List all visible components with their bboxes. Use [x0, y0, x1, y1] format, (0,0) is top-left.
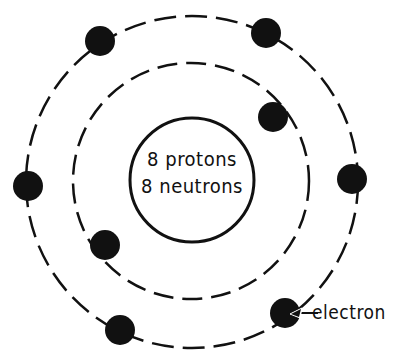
electron-outer-1: [85, 26, 115, 56]
nucleus-label: 8 protons 8 neutrons: [122, 146, 262, 200]
electron-inner-1: [258, 102, 288, 132]
electron-outer-3: [337, 164, 367, 194]
neutrons-label: 8 neutrons: [122, 173, 262, 200]
electron-outer-5: [105, 315, 135, 345]
electron-inner-2: [90, 230, 120, 260]
protons-label: 8 protons: [122, 146, 262, 173]
electron-outer-6: [13, 171, 43, 201]
electron-label: electron: [312, 301, 386, 323]
electron-outer-2: [251, 18, 281, 48]
